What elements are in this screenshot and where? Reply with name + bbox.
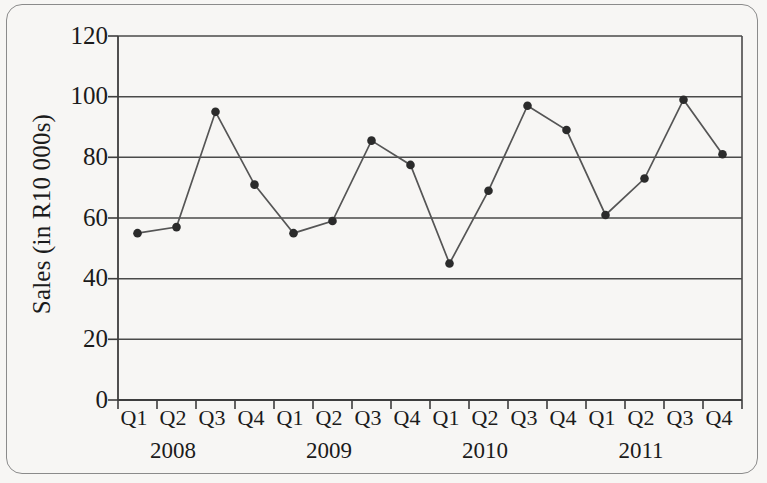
data-point bbox=[640, 174, 649, 183]
x-group-label-2008: 2008 bbox=[113, 438, 233, 464]
data-point bbox=[367, 136, 376, 145]
data-point bbox=[328, 217, 337, 226]
chart-page: Sales (in R10 000s) 120 100 80 60 40 20 … bbox=[0, 0, 767, 483]
data-series-line bbox=[138, 100, 723, 264]
data-point bbox=[679, 95, 688, 104]
line-chart: Sales (in R10 000s) 120 100 80 60 40 20 … bbox=[0, 0, 767, 483]
x-tick-label-2009-q2: Q2 bbox=[307, 405, 351, 431]
data-point bbox=[250, 180, 259, 189]
data-point bbox=[718, 150, 727, 159]
x-tick-label-2010-q3: Q3 bbox=[502, 405, 546, 431]
x-tick-label-2011-q4: Q4 bbox=[697, 405, 741, 431]
data-point bbox=[133, 229, 142, 238]
x-tick-label-2009-q3: Q3 bbox=[346, 405, 390, 431]
x-group-label-2009: 2009 bbox=[269, 438, 389, 464]
gridlines bbox=[118, 36, 742, 339]
x-tick-label-2009-q1: Q1 bbox=[268, 405, 312, 431]
x-tick-label-2009-q4: Q4 bbox=[385, 405, 429, 431]
x-tick-label-2011-q2: Q2 bbox=[619, 405, 663, 431]
data-point bbox=[172, 223, 181, 232]
y-axis-ticks bbox=[108, 36, 118, 400]
data-point bbox=[484, 186, 493, 195]
x-group-label-2010: 2010 bbox=[425, 438, 545, 464]
x-tick-label-2011-q1: Q1 bbox=[580, 405, 624, 431]
data-point bbox=[562, 126, 571, 135]
x-tick-label-2008-q3: Q3 bbox=[190, 405, 234, 431]
x-tick-label-2010-q4: Q4 bbox=[541, 405, 585, 431]
data-point bbox=[601, 211, 610, 220]
data-point bbox=[523, 101, 532, 110]
x-tick-label-2010-q2: Q2 bbox=[463, 405, 507, 431]
x-tick-label-2008-q1: Q1 bbox=[112, 405, 156, 431]
x-tick-label-2011-q3: Q3 bbox=[658, 405, 702, 431]
data-point bbox=[406, 161, 415, 170]
x-tick-label-2010-q1: Q1 bbox=[424, 405, 468, 431]
x-tick-label-2008-q2: Q2 bbox=[151, 405, 195, 431]
data-point bbox=[445, 259, 454, 268]
data-point bbox=[211, 108, 220, 117]
data-point bbox=[289, 229, 298, 238]
data-point-markers bbox=[133, 95, 727, 267]
x-tick-label-2008-q4: Q4 bbox=[229, 405, 273, 431]
x-group-label-2011: 2011 bbox=[581, 438, 701, 464]
